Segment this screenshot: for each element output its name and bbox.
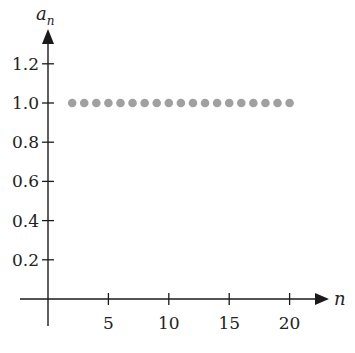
data-point <box>80 99 89 108</box>
x-tick-label: 20 <box>279 313 301 333</box>
data-point <box>285 99 294 108</box>
x-tick-label: 10 <box>158 313 180 333</box>
y-tick-label: 0.2 <box>12 250 39 270</box>
data-point <box>92 99 101 108</box>
data-point <box>116 99 125 108</box>
y-axis-label: an <box>36 3 54 28</box>
x-axis-label: n <box>334 288 346 309</box>
data-point <box>237 99 246 108</box>
y-axis-arrow-icon <box>42 29 54 44</box>
data-point <box>152 99 161 108</box>
data-point <box>128 99 137 108</box>
axes: 51015200.20.40.60.81.01.2 <box>12 29 329 333</box>
y-tick-label: 0.8 <box>12 132 39 152</box>
data-point <box>273 99 282 108</box>
data-point <box>201 99 210 108</box>
data-point <box>177 99 186 108</box>
x-axis-arrow-icon <box>315 293 329 305</box>
data-point <box>225 99 234 108</box>
data-point <box>261 99 270 108</box>
data-point <box>249 99 258 108</box>
data-point <box>189 99 198 108</box>
data-point <box>165 99 174 108</box>
y-tick-label: 0.6 <box>12 171 39 191</box>
y-tick-label: 1.2 <box>12 54 39 74</box>
data-point <box>213 99 222 108</box>
data-point <box>140 99 149 108</box>
sequence-plot: 51015200.20.40.60.81.01.2 n an <box>0 0 355 353</box>
data-point <box>68 99 77 108</box>
x-tick-label: 15 <box>218 313 240 333</box>
y-tick-label: 1.0 <box>12 93 39 113</box>
x-tick-label: 5 <box>103 313 114 333</box>
data-point <box>104 99 113 108</box>
y-tick-label: 0.4 <box>12 211 39 231</box>
data-points <box>68 99 294 108</box>
